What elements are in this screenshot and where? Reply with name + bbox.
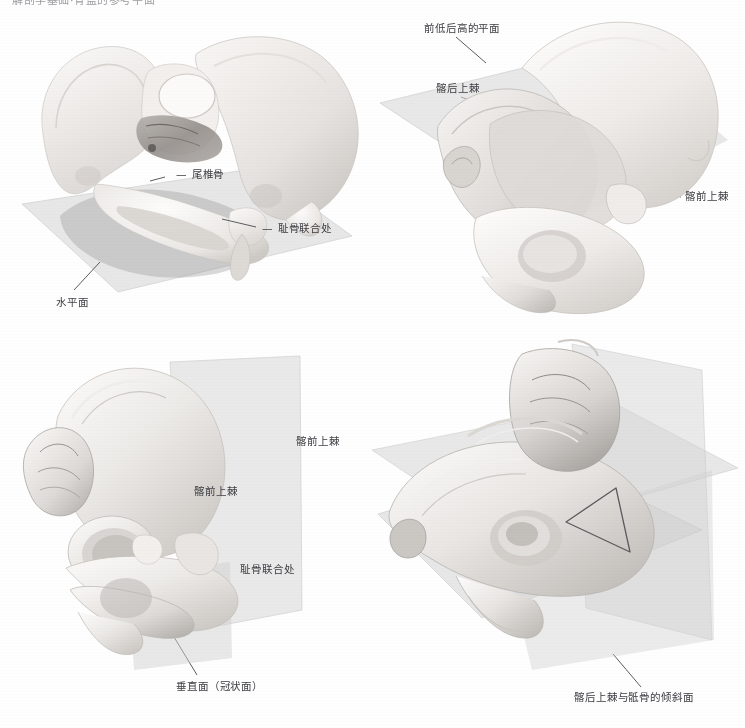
label-pubic-symphysis-tl: — 耻骨联合处 (262, 222, 332, 235)
running-head: 解剖学基础·骨盆的参考平面 (12, 0, 155, 7)
label-psis-sacrum-inclined-plane: 髂后上棘与骶骨的倾斜面 (574, 691, 694, 704)
bone-acetabulum-br (490, 510, 562, 566)
label-dash: — (176, 168, 192, 180)
label-psis: 髂后上棘 (436, 82, 480, 95)
label-asis-upper-bl: 髂前上棘 (296, 435, 340, 448)
label-vertical-plane: 垂直面（冠状面） (176, 680, 263, 693)
label-pubic-symphysis-bl: 耻骨联合处 (240, 563, 295, 576)
label-low-front-high-back-plane: 前低后高的平面 (424, 22, 500, 35)
label-asis-tr: 髂前上棘 (685, 190, 729, 203)
bone-obturator-foramen (100, 578, 152, 618)
textbook-figure-page: 解剖学基础·骨盆的参考平面 (0, 0, 745, 728)
figure-pelvis-vertical-plane (0, 340, 380, 728)
bone-ischium-pubis (474, 207, 644, 313)
label-asis-lower-bl: 髂前上棘 (194, 485, 238, 498)
bone-sacroiliac-area (23, 428, 93, 516)
figure-pelvis-combined-planes (372, 340, 745, 728)
bone-auricular-br (390, 519, 426, 558)
label-horizontal-plane: 水平面 (56, 296, 89, 309)
label-dash: — (262, 222, 278, 234)
label-coccyx: — 尾椎骨 (176, 168, 224, 181)
figure-pelvis-inclined-plane (372, 8, 745, 338)
